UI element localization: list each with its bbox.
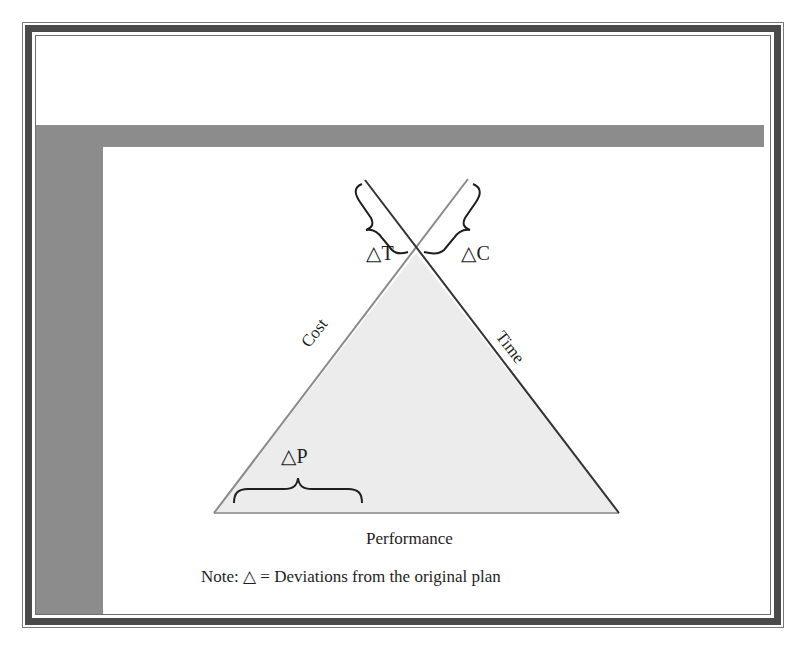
performance-label: Performance [366,530,453,547]
delta-t-label: △T [366,243,394,263]
delta-c-label: △C [461,243,490,263]
project-triangle-diagram [0,0,807,647]
deviation-note: Note: △ = Deviations from the original p… [201,568,501,585]
delta-p-label: △P [281,446,308,466]
triangle-body [214,253,619,513]
